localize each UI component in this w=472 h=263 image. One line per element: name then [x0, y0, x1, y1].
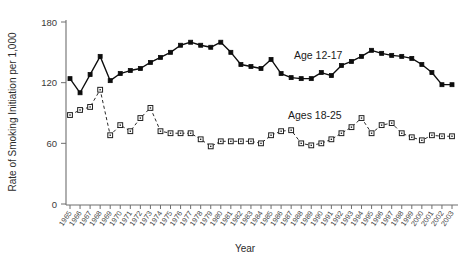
data-point-marker [158, 55, 162, 59]
data-point-marker-center [431, 135, 432, 136]
data-point-marker-center [341, 133, 342, 134]
data-point-marker [299, 77, 303, 81]
data-point-marker-center [140, 117, 141, 118]
data-point-marker [440, 83, 444, 87]
data-point-marker-center [150, 107, 151, 108]
data-point-marker [329, 74, 333, 78]
data-point-marker [239, 62, 243, 66]
data-point-marker [390, 53, 394, 57]
series-layer [68, 40, 455, 149]
data-point-marker-center [270, 135, 271, 136]
data-point-marker [128, 69, 132, 73]
data-point-marker [430, 71, 434, 75]
data-point-marker-center [69, 114, 70, 115]
data-point-marker-center [451, 136, 452, 137]
data-point-marker [319, 71, 323, 75]
data-point-marker-center [421, 140, 422, 141]
data-point-marker [279, 72, 283, 76]
data-point-marker-center [301, 143, 302, 144]
data-point-marker [339, 63, 343, 67]
y-tick-label: 60 [46, 138, 57, 149]
data-point-marker-center [110, 135, 111, 136]
data-point-marker [68, 77, 72, 81]
data-point-marker [179, 43, 183, 47]
data-point-marker-center [401, 133, 402, 134]
series-line-2 [70, 90, 452, 147]
data-point-marker-center [391, 122, 392, 123]
data-point-marker-center [290, 129, 291, 130]
data-point-marker-center [79, 109, 80, 110]
y-axis-title: Rate of Smoking Initiation per 1,000 [7, 32, 18, 191]
data-point-marker [380, 51, 384, 55]
data-point-marker [289, 76, 293, 80]
data-point-marker [88, 73, 92, 77]
data-point-marker-center [411, 137, 412, 138]
data-point-marker-center [280, 131, 281, 132]
data-point-marker [420, 62, 424, 66]
data-point-marker-center [220, 141, 221, 142]
data-point-marker-center [180, 133, 181, 134]
y-axis-ticks: 060120180 [41, 17, 66, 210]
y-tick-label: 0 [52, 199, 57, 210]
data-point-marker-center [120, 124, 121, 125]
data-point-marker [169, 50, 173, 54]
data-point-marker-center [130, 131, 131, 132]
data-point-marker [360, 54, 364, 58]
data-point-marker-center [260, 143, 261, 144]
data-point-marker [98, 54, 102, 58]
data-point-marker [410, 56, 414, 60]
data-point-marker [269, 57, 273, 61]
data-point-marker [209, 45, 213, 49]
data-point-marker-center [311, 145, 312, 146]
data-point-marker [199, 43, 203, 47]
data-point-marker [259, 67, 263, 71]
data-point-marker-center [331, 139, 332, 140]
data-point-marker-center [321, 143, 322, 144]
series-annotations: Age 12-17Ages 18-25 [288, 49, 343, 121]
data-point-marker [349, 59, 353, 63]
data-point-marker-center [351, 126, 352, 127]
data-point-marker [400, 54, 404, 58]
data-point-marker-center [250, 141, 251, 142]
data-point-marker-center [361, 117, 362, 118]
data-point-marker-center [230, 141, 231, 142]
data-point-marker-center [170, 133, 171, 134]
series-annotation-2: Ages 18-25 [288, 109, 342, 121]
data-point-marker [229, 50, 233, 54]
data-point-marker-center [160, 131, 161, 132]
series-annotation-1: Age 12-17 [294, 49, 343, 61]
smoking-initiation-line-chart: Rate of Smoking Initiation per 1,000 Yea… [0, 0, 472, 263]
data-point-marker-center [371, 133, 372, 134]
data-point-marker-center [210, 146, 211, 147]
data-point-marker-center [190, 133, 191, 134]
data-point-marker [309, 77, 313, 81]
data-point-marker [78, 91, 82, 95]
data-point-marker [138, 67, 142, 71]
x-axis-title: Year [235, 243, 256, 254]
data-point-marker-center [381, 124, 382, 125]
data-point-marker [219, 40, 223, 44]
x-axis-ticks: 1965196619671968196919701971197219731974… [57, 205, 456, 228]
data-point-marker [108, 79, 112, 83]
data-point-marker-center [441, 136, 442, 137]
data-point-marker-center [240, 141, 241, 142]
y-tick-label: 120 [41, 77, 57, 88]
data-point-marker [148, 60, 152, 64]
data-point-marker [249, 64, 253, 68]
data-point-marker [370, 48, 374, 52]
data-point-marker [189, 40, 193, 44]
data-point-marker [450, 83, 454, 87]
y-tick-label: 180 [41, 17, 57, 28]
data-point-marker-center [89, 106, 90, 107]
data-point-marker-center [200, 139, 201, 140]
data-point-marker-center [99, 89, 100, 90]
data-point-marker [118, 72, 122, 76]
